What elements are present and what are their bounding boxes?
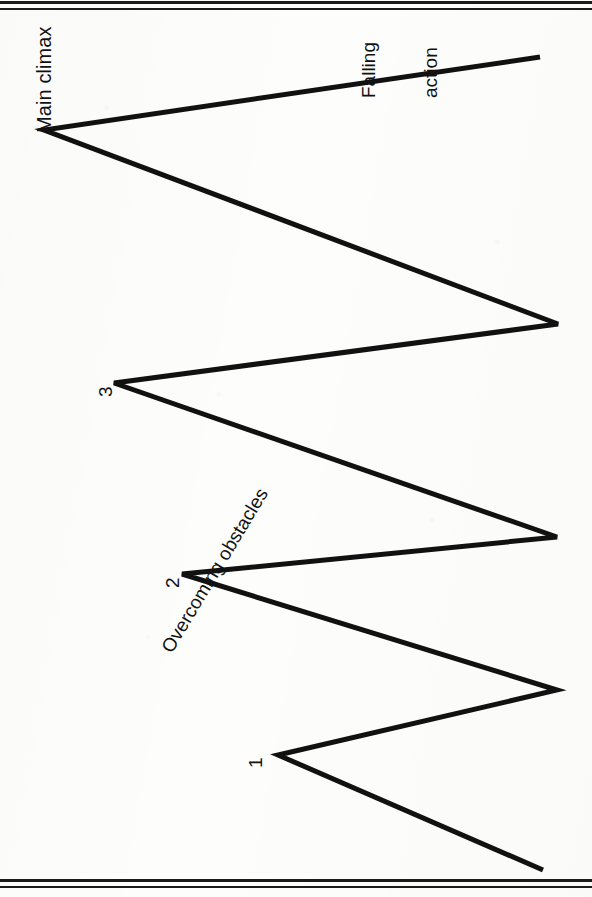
label-falling-action: Falling action	[318, 42, 482, 98]
peak-number-2: 2	[162, 577, 184, 588]
plot-diagram-chart	[0, 0, 592, 897]
label-falling-action-line2: action	[421, 42, 442, 98]
story-arc-polyline	[44, 57, 558, 870]
peak-number-1: 1	[245, 757, 267, 768]
label-falling-action-line1: Falling	[359, 42, 380, 98]
label-main-climax: Main climax	[34, 26, 56, 133]
peak-number-3: 3	[95, 386, 117, 397]
scanned-page: Main climax Falling action Overcoming ob…	[0, 0, 592, 897]
